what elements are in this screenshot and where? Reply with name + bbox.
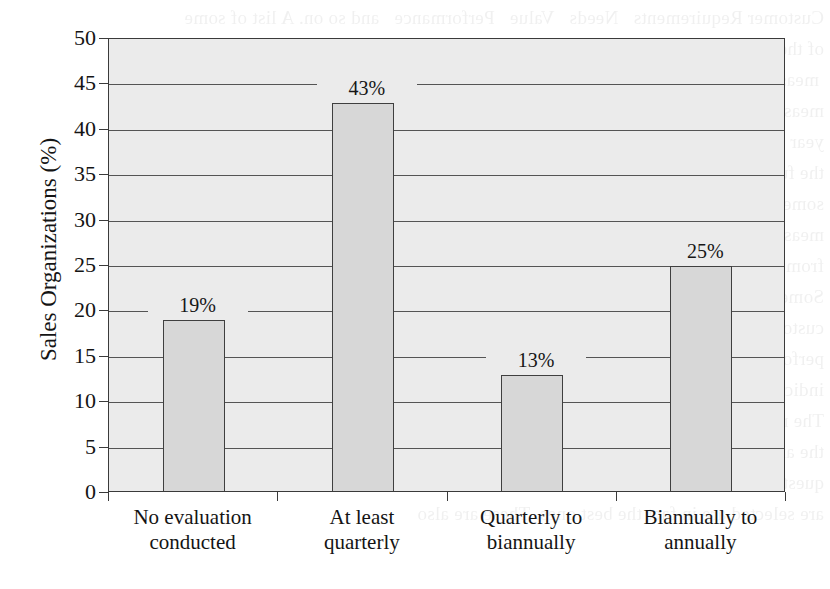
x-axis-tick-mark (108, 492, 109, 501)
y-axis-tick-mark (99, 447, 108, 448)
bar-value-label: 25% (655, 241, 755, 261)
x-axis-category-label-line: quarterly (272, 530, 452, 555)
x-axis-category-label: No evaluationconducted (103, 505, 283, 555)
x-axis-category-label-line: annually (610, 530, 790, 555)
y-axis-tick-mark (99, 38, 108, 39)
bar-value-label: 43% (317, 78, 417, 98)
x-axis-tick-mark (447, 492, 448, 501)
x-axis-category-label: Quarterly tobiannually (441, 505, 621, 555)
x-axis-category-label-line: conducted (103, 530, 283, 555)
y-axis-tick-mark (99, 356, 108, 357)
x-axis-category-label-line: No evaluation (103, 505, 283, 530)
gridline (109, 175, 784, 176)
gridline (109, 130, 784, 131)
x-axis-category-label-line: Quarterly to (441, 505, 621, 530)
y-axis-tick-label: 50 (4, 27, 96, 49)
y-axis-tick-mark (99, 220, 108, 221)
y-axis-tick-mark (99, 83, 108, 84)
bar-chart-figure: 05101520253035404550 Sales Organizations… (0, 0, 830, 589)
x-axis-tick-mark (616, 492, 617, 501)
x-axis-category-label-line: At least (272, 505, 452, 530)
y-axis-tick-mark (99, 129, 108, 130)
y-axis-tick-mark (99, 310, 108, 311)
bar (670, 266, 732, 491)
y-axis-tick-mark (99, 174, 108, 175)
x-axis-category-label-line: biannually (441, 530, 621, 555)
gridline (109, 221, 784, 222)
y-axis-tick-label: 5 (4, 436, 96, 458)
y-axis-tick-mark (99, 265, 108, 266)
bar-value-label: 13% (486, 350, 586, 370)
plot-inner (109, 39, 784, 491)
bar (163, 320, 225, 491)
y-axis-tick-label: 0 (4, 481, 96, 503)
x-axis-tick-mark (277, 492, 278, 501)
x-axis-category-label: At leastquarterly (272, 505, 452, 555)
x-axis-tick-mark (785, 492, 786, 501)
x-axis-category-label-line: Biannually to (610, 505, 790, 530)
y-axis-tick-mark (99, 401, 108, 402)
bar-value-label: 19% (148, 295, 248, 315)
plot-area (108, 38, 785, 492)
y-axis-tick-mark (99, 492, 108, 493)
gridline (109, 84, 784, 85)
y-axis-title: Sales Organizations (%) (37, 90, 60, 410)
bar (501, 375, 563, 491)
bar (332, 103, 394, 491)
x-axis-category-label: Biannually toannually (610, 505, 790, 555)
